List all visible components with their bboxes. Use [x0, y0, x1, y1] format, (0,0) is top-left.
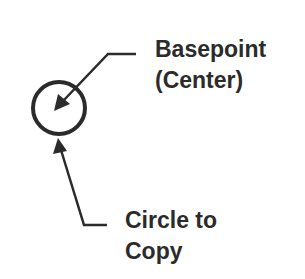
circle-label-line2: Copy: [125, 238, 183, 264]
basepoint-label-line1: Basepoint: [155, 36, 267, 62]
diagram-canvas: Basepoint (Center) Circle to Copy: [0, 0, 305, 279]
basepoint-label-line2: (Center): [155, 67, 243, 93]
circle-leader-arrow: [53, 138, 107, 225]
circle-label-line1: Circle to: [125, 207, 217, 233]
